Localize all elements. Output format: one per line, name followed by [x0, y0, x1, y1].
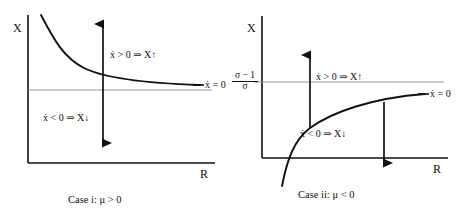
- lower-region-annotation: ẋ < 0 ⇒ X↓: [300, 129, 346, 139]
- nullcline-curve: [282, 94, 425, 186]
- upper-region-annotation: ẋ > 0 ⇒ X↑: [110, 50, 156, 60]
- panel-case-i-graphics: [0, 0, 232, 223]
- nullcline-label: ẋ = 0: [205, 80, 226, 90]
- y-axis-label: X: [247, 22, 256, 34]
- upper-region-annotation: ẋ > 0 ⇒ X↑: [316, 72, 362, 82]
- panel-case-i: X R ẋ = 0 ẋ > 0 ⇒ X↑ ẋ < 0 ⇒ X↓ Case i: …: [0, 0, 232, 223]
- x-axis-label: R: [433, 163, 441, 175]
- panel-caption: Case ii: μ < 0: [298, 190, 354, 201]
- panel-caption: Case i: μ > 0: [68, 195, 122, 206]
- nullcline-label: ẋ = 0: [430, 89, 451, 99]
- lower-region-annotation: ẋ < 0 ⇒ X↓: [43, 113, 89, 123]
- x-axis-label: R: [200, 168, 208, 180]
- sigma-ratio-axis-label: σ − 1 σ: [232, 71, 258, 92]
- y-axis-label: X: [13, 22, 22, 34]
- panel-case-ii: X R σ − 1 σ ẋ = 0 ẋ > 0 ⇒ X↑ ẋ < 0 ⇒ X↓ …: [232, 0, 464, 223]
- figure-phase-diagrams: X R ẋ = 0 ẋ > 0 ⇒ X↑ ẋ < 0 ⇒ X↓ Case i: …: [0, 0, 464, 223]
- sigma-ratio-denominator: σ: [232, 82, 258, 92]
